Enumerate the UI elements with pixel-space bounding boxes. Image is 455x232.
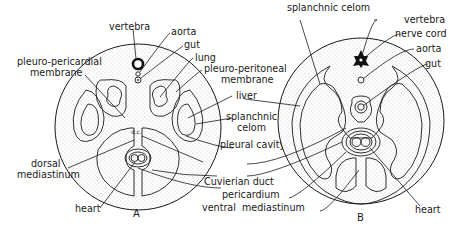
label-pleuro-peritoneal-a: pleuro-peritoneal (204, 63, 287, 74)
label-vertebra-a: vertebra (109, 21, 150, 32)
label-dorsal-mediastinum-a: dorsal (31, 158, 60, 169)
label-pleural-cavity-a: pleural cavity (220, 139, 286, 150)
label-ventral-mediastinum-a: ventral mediastinum (202, 202, 305, 213)
label-heart-a: heart (75, 203, 101, 214)
label-dorsal-mediastinum-a-2: mediastinum (17, 169, 80, 180)
dc-annotation: d.c. (131, 128, 142, 135)
label-vertebra-b: vertebra (404, 14, 445, 25)
vertebra-a (133, 59, 143, 69)
label-splanchnic-celom-a-2: celom (237, 122, 266, 133)
label-splanchnic-celom-a: splanchnic (226, 111, 277, 122)
label-gut-a: gut (184, 39, 200, 50)
gut-lumen-a (137, 79, 140, 82)
label-splanchnic-celom-b: splanchnic celom (287, 2, 370, 13)
label-lung-a: lung (195, 52, 216, 63)
label-nerve-cord-b: nerve cord (395, 28, 447, 39)
panel-letter-b: B (357, 212, 364, 223)
label-pleuro-pericardial-a: pleuro-pericardial (17, 56, 102, 67)
embryo-cross-section-diagram: d.c. vertebra aorta gut lung pleuro-peri… (0, 0, 455, 232)
label-pleuro-pericardial-a-2: membrane (30, 67, 83, 78)
label-heart-b: heart (415, 204, 441, 215)
panel-letter-a: A (133, 208, 140, 219)
label-pleuro-peritoneal-a-2: membrane (221, 74, 274, 85)
label-aorta-b: aorta (416, 43, 441, 54)
label-pericardium-a: pericardium (222, 189, 280, 200)
label-aorta-a: aorta (171, 26, 196, 37)
label-cuvierian-duct-a: Cuvierian duct (204, 176, 274, 187)
label-gut-b: gut (425, 58, 441, 69)
panel-a: d.c. vertebra aorta gut lung pleuro-peri… (17, 21, 305, 219)
